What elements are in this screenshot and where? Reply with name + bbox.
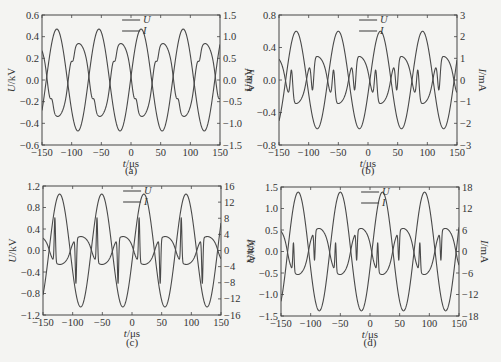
figure: −150−100−50050100150−0.6−0.4−0.20.00.20.… xyxy=(0,0,501,362)
x-tick-label: −100 xyxy=(62,317,84,328)
y-tick-label: −0.8 xyxy=(21,288,40,299)
y-axis-label: U/kV xyxy=(5,68,17,93)
y2-tick-label: −1.0 xyxy=(223,118,242,129)
y-tick-label: 0.0 xyxy=(265,246,278,257)
y2-tick-label: 1.5 xyxy=(223,10,236,21)
plot-frame xyxy=(279,15,457,145)
chart-panel-d: −150−100−50050100150−1.5−1.0−0.50.00.51.… xyxy=(244,182,491,350)
y2-tick-label: −12 xyxy=(462,289,478,300)
y-axis-label: U/kV xyxy=(242,68,254,93)
legend-label-I: I xyxy=(381,197,386,208)
y2-tick-label: −2 xyxy=(460,118,471,129)
y2-tick-label: 0 xyxy=(462,246,467,257)
y-tick-label: 0.4 xyxy=(26,31,40,42)
series-U-line xyxy=(43,194,221,307)
y2-tick-label: 16 xyxy=(224,181,235,192)
y2-tick-label: 0 xyxy=(224,245,229,256)
x-tick-label: 100 xyxy=(183,317,199,328)
x-tick-label: 50 xyxy=(155,147,166,158)
x-tick-label: −100 xyxy=(298,147,320,158)
legend-label-U: U xyxy=(380,14,389,25)
x-tick-label: −100 xyxy=(61,147,83,158)
y2-tick-label: −1 xyxy=(460,96,471,107)
y2-tick-label: −6 xyxy=(462,268,473,279)
chart-panel-c: −150−100−50050100150−1.2−0.8−0.40.00.40.… xyxy=(6,181,258,350)
x-tick-label: 100 xyxy=(419,147,435,158)
y2-tick-label: 1.0 xyxy=(223,31,236,42)
y2-tick-label: 4 xyxy=(224,229,230,240)
series-U-line xyxy=(281,192,459,311)
x-tick-label: 50 xyxy=(156,317,167,328)
y-tick-label: 0.6 xyxy=(26,10,39,21)
chart-panel-b: −150−100−50050100150−0.8−0.40.00.40.8−3−… xyxy=(242,10,489,178)
y-tick-label: −0.5 xyxy=(259,268,278,279)
legend-label-U: U xyxy=(143,14,152,25)
y2-tick-label: 18 xyxy=(462,182,473,193)
panel-caption: (b) xyxy=(362,164,375,177)
legend-label-I: I xyxy=(142,25,147,36)
panel-caption: (c) xyxy=(126,336,139,349)
y2-tick-label: 6 xyxy=(462,225,467,236)
x-tick-label: 100 xyxy=(421,318,437,329)
y2-tick-label: 12 xyxy=(462,203,473,214)
y2-axis-unit: /mA xyxy=(477,72,489,92)
chart-panel-a: −150−100−50050100150−0.6−0.4−0.20.00.20.… xyxy=(5,10,257,178)
y-tick-label: −1.2 xyxy=(21,310,40,321)
y-axis-unit: /kV xyxy=(244,239,256,256)
y-tick-label: 0.5 xyxy=(265,225,278,236)
y2-tick-label: −4 xyxy=(224,261,236,272)
y-tick-label: 0.4 xyxy=(27,224,41,235)
y-tick-label: −0.2 xyxy=(20,96,39,107)
panel-caption: (a) xyxy=(125,164,138,177)
y-tick-label: 0.8 xyxy=(263,10,276,21)
y-tick-label: 1.0 xyxy=(265,203,278,214)
y2-tick-label: 0.0 xyxy=(223,75,236,86)
x-tick-label: −50 xyxy=(330,147,346,158)
y-tick-label: 0.0 xyxy=(26,75,39,86)
y-axis-label: U/kV xyxy=(244,239,256,264)
y-axis-unit: /kV xyxy=(6,238,18,255)
legend-label-U: U xyxy=(144,185,153,196)
y-tick-label: −0.4 xyxy=(21,267,41,278)
legend-label-I: I xyxy=(143,196,148,207)
y-tick-label: −1.5 xyxy=(259,311,278,322)
y-tick-label: −1.0 xyxy=(259,289,278,300)
y-tick-label: 0.0 xyxy=(263,75,276,86)
y2-tick-label: 12 xyxy=(224,197,235,208)
y2-tick-label: −8 xyxy=(224,277,235,288)
y-tick-label: 0.4 xyxy=(263,42,277,53)
y2-tick-label: 0 xyxy=(460,75,465,86)
y2-axis-unit: /mA xyxy=(479,244,491,264)
x-tick-label: −50 xyxy=(93,147,109,158)
x-tick-label: 50 xyxy=(394,318,405,329)
y2-tick-label: −18 xyxy=(462,311,478,322)
y-tick-label: −0.6 xyxy=(20,140,39,151)
y-tick-label: 0.0 xyxy=(27,245,40,256)
y2-tick-label: −3 xyxy=(460,140,471,151)
y2-tick-label: 1 xyxy=(460,53,465,64)
x-tick-label: 100 xyxy=(182,147,198,158)
y-tick-label: 0.8 xyxy=(27,202,40,213)
y-tick-label: 0.2 xyxy=(26,53,39,64)
legend-label-U: U xyxy=(382,186,391,197)
y2-tick-label: 3 xyxy=(460,10,465,21)
y2-tick-label: −12 xyxy=(224,293,240,304)
panel-caption: (d) xyxy=(364,336,377,349)
x-tick-label: 50 xyxy=(392,147,403,158)
y2-tick-label: −16 xyxy=(224,310,240,321)
y2-tick-label: −0.5 xyxy=(223,96,242,107)
y-axis-label: U/kV xyxy=(6,238,18,263)
y2-axis-label: I/mA xyxy=(479,239,491,263)
y-tick-label: −0.8 xyxy=(257,140,276,151)
y2-tick-label: 2 xyxy=(460,31,465,42)
x-tick-label: −50 xyxy=(332,318,348,329)
y-tick-label: 1.2 xyxy=(27,181,40,192)
legend-label-I: I xyxy=(379,25,384,36)
y2-tick-label: 0.5 xyxy=(223,53,236,64)
y-axis-unit: /kV xyxy=(5,68,17,85)
y-tick-label: −0.4 xyxy=(20,118,40,129)
y-tick-label: 1.5 xyxy=(265,182,278,193)
y2-axis-label: I/mA xyxy=(477,67,489,91)
y-axis-unit: /kV xyxy=(242,68,254,85)
plot-frame xyxy=(281,187,459,316)
